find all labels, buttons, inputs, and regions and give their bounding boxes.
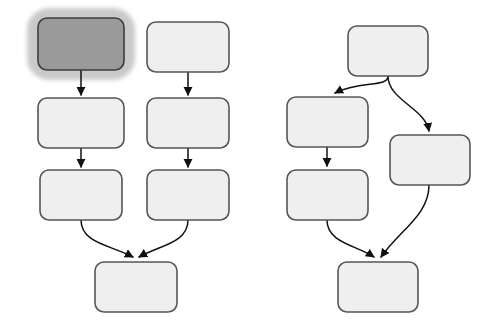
node-box-selected[interactable] (38, 18, 124, 70)
node-layer (38, 18, 470, 312)
connector-layer (81, 70, 429, 257)
connector-arrow[interactable] (335, 76, 388, 93)
node-box[interactable] (40, 170, 122, 220)
flowchart-node[interactable] (147, 170, 229, 220)
node-box[interactable] (38, 98, 124, 148)
flowchart-canvas (0, 0, 494, 334)
flowchart-node[interactable] (147, 98, 229, 148)
flowchart-node[interactable] (95, 262, 177, 312)
node-box[interactable] (338, 262, 418, 312)
node-box[interactable] (348, 26, 428, 76)
flowchart-node[interactable] (38, 98, 124, 148)
flowchart-svg (0, 0, 494, 334)
flowchart-node[interactable] (40, 170, 122, 220)
flowchart-node[interactable] (338, 262, 418, 312)
node-box[interactable] (390, 135, 470, 185)
connector-arrow[interactable] (381, 185, 429, 257)
flowchart-node[interactable] (287, 97, 368, 147)
flowchart-node[interactable] (390, 135, 470, 185)
node-box[interactable] (287, 170, 368, 220)
node-box[interactable] (147, 22, 229, 72)
flowchart-node[interactable] (348, 26, 428, 76)
connector-arrow[interactable] (327, 220, 374, 257)
node-box[interactable] (147, 170, 229, 220)
connector-arrow[interactable] (388, 76, 429, 131)
node-box[interactable] (287, 97, 368, 147)
node-box[interactable] (147, 98, 229, 148)
flowchart-node[interactable] (287, 170, 368, 220)
connector-arrow[interactable] (81, 220, 133, 257)
connector-arrow[interactable] (139, 220, 188, 257)
flowchart-node[interactable] (38, 18, 124, 70)
flowchart-node[interactable] (147, 22, 229, 72)
node-box[interactable] (95, 262, 177, 312)
